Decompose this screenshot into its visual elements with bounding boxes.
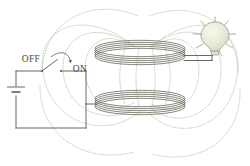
primary-coil-turn-3 — [95, 44, 185, 60]
switch-direction-arrow — [51, 53, 71, 63]
switch-off-label: OFF — [22, 54, 40, 64]
bulb-base — [211, 51, 219, 55]
switch-on-label: ON — [73, 64, 87, 74]
secondary-coil — [95, 90, 185, 114]
battery-cell — [7, 87, 25, 92]
switch-closed-contact[interactable] — [60, 70, 62, 72]
switch-blade[interactable] — [42, 60, 58, 72]
load-circuit — [184, 49, 212, 61]
light-bulb — [193, 17, 236, 56]
light-ray-sw — [196, 44, 203, 48]
source-circuit — [16, 71, 97, 128]
light-ray-se — [226, 44, 233, 48]
field-line-bottom-right — [152, 88, 240, 157]
wireless-power-diagram: OFF ON — [0, 0, 250, 166]
field-line-bottom-left — [40, 86, 134, 155]
toggle-switch[interactable] — [41, 60, 62, 73]
secondary-coil-turn-3 — [95, 94, 185, 110]
diagram-canvas: OFF ON — [0, 0, 250, 166]
bulb-glass — [201, 22, 229, 51]
primary-coil — [95, 40, 185, 64]
